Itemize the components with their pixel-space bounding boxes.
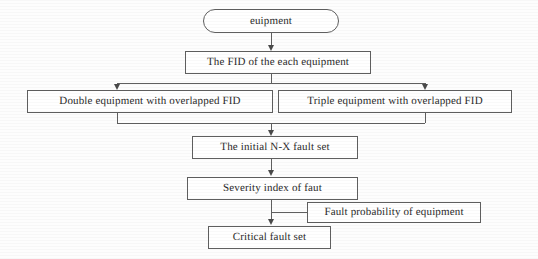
edge-split-to-double-arrowhead xyxy=(114,84,120,90)
edge-initial-to-severity-arrowhead xyxy=(268,170,274,176)
node-fault-probability-of-equipment-label: Fault probability of equipment xyxy=(324,207,463,218)
node-start-equipment[interactable]: euipment xyxy=(203,9,339,33)
node-severity-index-of-fault-label: Severity index of faut xyxy=(223,183,322,194)
edge-severity-to-critical-arrowhead xyxy=(268,219,274,225)
node-critical-fault-set[interactable]: Critical fault set xyxy=(208,226,331,249)
edge-split-to-triple-arrowhead xyxy=(422,84,428,90)
edge-fid-split-trunk xyxy=(271,74,272,83)
node-initial-nx-fault-set[interactable]: The initial N-X fault set xyxy=(192,136,358,159)
node-fault-probability-of-equipment[interactable]: Fault probability of equipment xyxy=(307,202,481,223)
edge-fid-split-bus xyxy=(117,83,425,84)
node-initial-nx-fault-set-label: The initial N-X fault set xyxy=(220,142,329,153)
edge-start-to-fid-arrowhead xyxy=(268,45,274,51)
edge-severity-to-critical-line xyxy=(271,200,272,220)
node-fid-of-each-equipment-label: The FID of the each equipment xyxy=(207,57,349,68)
node-start-equipment-label: euipment xyxy=(250,16,292,27)
node-double-equipment-overlapped-fid[interactable]: Double equipment with overlapped FID xyxy=(27,90,273,113)
node-triple-equipment-overlapped-fid[interactable]: Triple equipment with overlapped FID xyxy=(278,90,512,113)
node-critical-fault-set-label: Critical fault set xyxy=(233,232,307,243)
edge-double-merge-drop xyxy=(117,113,118,123)
node-severity-index-of-fault[interactable]: Severity index of faut xyxy=(187,177,358,200)
edge-probability-to-trunk-line xyxy=(271,212,307,213)
node-fid-of-each-equipment[interactable]: The FID of the each equipment xyxy=(185,51,371,74)
node-triple-equipment-overlapped-fid-label: Triple equipment with overlapped FID xyxy=(307,96,482,107)
edge-merge-to-initial-arrowhead xyxy=(268,130,274,136)
flowchart-canvas: euipment The FID of the each equipment D… xyxy=(0,0,538,259)
edge-triple-merge-drop xyxy=(425,113,426,123)
node-double-equipment-overlapped-fid-label: Double equipment with overlapped FID xyxy=(59,96,240,107)
